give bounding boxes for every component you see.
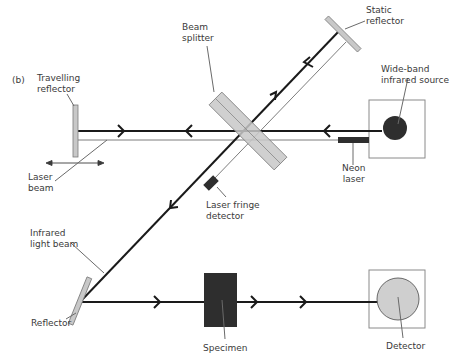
wide-band-infrared-source xyxy=(383,116,407,140)
travelling-reflector xyxy=(73,105,78,157)
specimen xyxy=(204,273,237,327)
static-reflector xyxy=(325,16,361,52)
laser-fringe-detector xyxy=(203,175,219,191)
label-beam-splitter: Beam splitter xyxy=(182,22,214,43)
leader-beam-splitter xyxy=(207,46,214,92)
panel-label: (b) xyxy=(12,75,25,86)
label-specimen: Specimen xyxy=(203,343,247,354)
leader-laser-beam xyxy=(55,140,107,181)
leader-static-reflector xyxy=(345,21,365,29)
label-reflector: Reflector xyxy=(31,318,71,329)
label-laser-fringe-detector: Laser fringe detector xyxy=(206,200,260,221)
label-wide-band-source: Wide-band infrared source xyxy=(381,64,449,85)
leader-laser-fringe-detector xyxy=(217,187,226,197)
label-detector: Detector xyxy=(386,341,425,352)
label-infrared-light-beam: Infrared light beam xyxy=(30,228,78,249)
label-static-reflector: Static reflector xyxy=(366,5,404,26)
infrared-beam-path xyxy=(78,30,382,302)
leader-travelling-reflector xyxy=(67,94,74,106)
label-neon-laser: Neon laser xyxy=(342,163,365,184)
label-laser-beam: Laser beam xyxy=(28,172,54,193)
label-travelling-reflector: Travelling reflector xyxy=(37,73,80,94)
neon-laser xyxy=(338,137,369,143)
